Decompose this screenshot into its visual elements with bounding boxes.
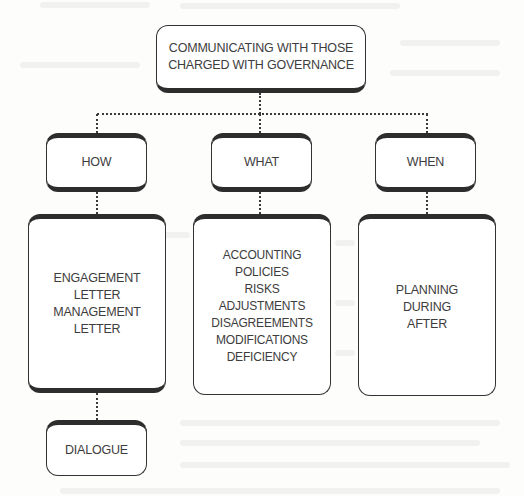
what-heading: WHAT (244, 154, 279, 171)
when-details-node: PLANNING DURING AFTER (358, 214, 496, 396)
when-detail-2: DURING (403, 299, 451, 316)
how-detail-4: LETTER (74, 321, 121, 338)
when-heading: WHEN (407, 154, 444, 171)
what-detail-5: DISAGREEMENTS (211, 315, 312, 332)
how-detail-2: LETTER (74, 287, 121, 304)
when-detail-connector (426, 192, 428, 214)
when-detail-3: AFTER (407, 316, 447, 333)
what-detail-6: MODIFICATIONS (216, 332, 308, 349)
how-details-node: ENGAGEMENT LETTER MANAGEMENT LETTER (28, 214, 166, 393)
root-line-1: COMMUNICATING WITH THOSE (169, 40, 353, 57)
what-connector (259, 114, 261, 133)
what-detail-1: ACCOUNTING (223, 247, 302, 264)
how-node: HOW (46, 133, 147, 192)
what-detail-4: ADJUSTMENTS (219, 298, 305, 315)
when-node: WHEN (375, 133, 476, 192)
horizontal-connector (97, 113, 428, 115)
when-detail-1: PLANNING (396, 282, 458, 299)
when-connector (426, 114, 428, 133)
dialogue-label: DIALOGUE (65, 442, 128, 459)
how-detail-3: MANAGEMENT (53, 304, 141, 321)
how-detail-1: ENGAGEMENT (54, 270, 141, 287)
what-detail-connector (259, 192, 261, 214)
how-heading: HOW (82, 154, 112, 171)
root-connector (259, 93, 261, 114)
how-detail-connector (96, 192, 98, 214)
what-detail-7: DEFICIENCY (227, 349, 298, 366)
how-connector (96, 114, 98, 133)
root-node: COMMUNICATING WITH THOSE CHARGED WITH GO… (156, 25, 366, 93)
what-detail-2: POLICIES (235, 264, 289, 281)
root-line-2: CHARGED WITH GOVERNANCE (168, 57, 354, 74)
what-details-node: ACCOUNTING POLICIES RISKS ADJUSTMENTS DI… (193, 214, 331, 395)
dialogue-connector (96, 393, 98, 420)
dialogue-node: DIALOGUE (46, 420, 147, 476)
what-node: WHAT (211, 133, 312, 192)
what-detail-3: RISKS (244, 281, 279, 298)
